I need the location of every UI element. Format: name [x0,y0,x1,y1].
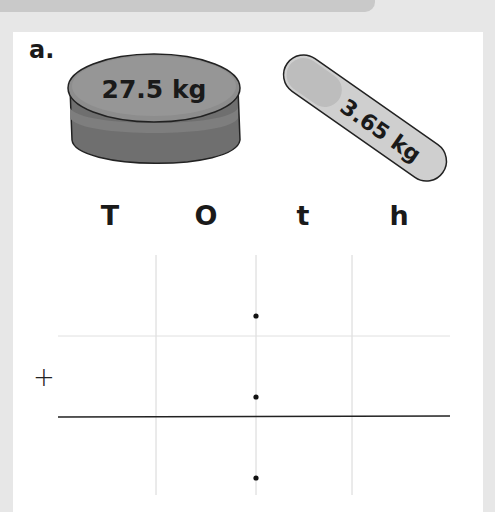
column-header-tenths: t [283,200,323,231]
decimal-point [253,394,258,399]
round-container-icon: 27.5 kg [68,54,240,163]
decimal-point [253,475,258,480]
column-header-tens: T [90,200,130,231]
answer-line [58,416,450,417]
container-weight: 27.5 kg [102,75,207,104]
tube-icon: 3.65 kg [276,47,455,189]
plus-operator: + [33,362,55,392]
place-value-grid [58,255,450,495]
decimal-point [253,313,258,318]
column-header-ones: O [186,200,226,231]
column-header-hundredths: h [379,200,419,231]
